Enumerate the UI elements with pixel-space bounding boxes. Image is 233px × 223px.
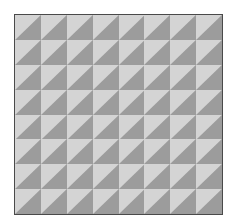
half-square-triangle-icon <box>144 90 170 115</box>
pattern-cell <box>144 115 170 140</box>
pattern-cell <box>41 115 67 140</box>
pattern-cell <box>196 65 222 90</box>
half-square-triangle-icon <box>170 40 196 65</box>
pattern-cell <box>67 164 93 189</box>
half-square-triangle-icon <box>93 15 119 40</box>
pattern-cell <box>144 139 170 164</box>
pattern-cell <box>119 115 145 140</box>
pattern-cell <box>170 40 196 65</box>
half-square-triangle-icon <box>196 164 222 189</box>
half-square-triangle-icon <box>67 65 93 90</box>
half-square-triangle-icon <box>93 139 119 164</box>
pattern-cell <box>170 15 196 40</box>
half-square-triangle-icon <box>93 65 119 90</box>
half-square-triangle-icon <box>196 65 222 90</box>
half-square-triangle-icon <box>41 65 67 90</box>
half-square-triangle-icon <box>15 90 41 115</box>
half-square-triangle-icon <box>144 65 170 90</box>
pattern-cell <box>15 115 41 140</box>
half-square-triangle-icon <box>41 15 67 40</box>
half-square-triangle-icon <box>144 15 170 40</box>
pattern-cell <box>41 90 67 115</box>
pattern-cell <box>15 139 41 164</box>
pattern-cell <box>41 65 67 90</box>
pattern-cell <box>119 65 145 90</box>
half-square-triangle-icon <box>119 164 145 189</box>
half-square-triangle-icon <box>93 115 119 140</box>
pattern-cell <box>67 90 93 115</box>
half-square-triangle-icon <box>15 164 41 189</box>
pattern-cell <box>144 40 170 65</box>
pattern-cell <box>170 189 196 214</box>
pattern-cell <box>196 189 222 214</box>
half-square-triangle-icon <box>196 90 222 115</box>
pattern-cell <box>93 115 119 140</box>
pattern-cell <box>15 90 41 115</box>
pattern-cell <box>119 15 145 40</box>
half-square-triangle-icon <box>170 65 196 90</box>
pattern-cell <box>119 90 145 115</box>
half-square-triangle-icon <box>67 40 93 65</box>
half-square-triangle-icon <box>15 115 41 140</box>
half-square-triangle-icon <box>15 65 41 90</box>
pattern-cell <box>144 189 170 214</box>
half-square-triangle-icon <box>15 15 41 40</box>
pattern-cell <box>67 139 93 164</box>
half-square-triangle-icon <box>196 189 222 214</box>
half-square-triangle-icon <box>67 164 93 189</box>
pattern-cell <box>196 40 222 65</box>
pattern-cell <box>119 40 145 65</box>
pattern-cell <box>67 15 93 40</box>
half-square-triangle-icon <box>119 15 145 40</box>
pattern-cell <box>119 164 145 189</box>
half-square-triangle-icon <box>170 115 196 140</box>
half-square-triangle-icon <box>119 65 145 90</box>
half-square-triangle-icon <box>170 189 196 214</box>
half-square-triangle-icon <box>41 189 67 214</box>
half-square-triangle-icon <box>170 139 196 164</box>
pattern-cell <box>119 189 145 214</box>
half-square-triangle-icon <box>196 15 222 40</box>
half-square-triangle-icon <box>196 115 222 140</box>
half-square-triangle-icon <box>144 115 170 140</box>
half-square-triangle-icon <box>41 139 67 164</box>
half-square-triangle-icon <box>196 139 222 164</box>
pattern-cell <box>67 115 93 140</box>
pattern-cell <box>15 65 41 90</box>
half-square-triangle-icon <box>67 139 93 164</box>
half-square-triangle-icon <box>41 164 67 189</box>
pattern-cell <box>41 164 67 189</box>
half-square-triangle-icon <box>93 189 119 214</box>
triangle-pattern-grid <box>14 14 223 215</box>
pattern-cell <box>93 189 119 214</box>
half-square-triangle-icon <box>67 90 93 115</box>
pattern-cell <box>41 15 67 40</box>
pattern-cell <box>144 164 170 189</box>
half-square-triangle-icon <box>41 115 67 140</box>
half-square-triangle-icon <box>93 90 119 115</box>
pattern-cell <box>170 90 196 115</box>
pattern-cell <box>41 189 67 214</box>
half-square-triangle-icon <box>119 40 145 65</box>
half-square-triangle-icon <box>144 40 170 65</box>
half-square-triangle-icon <box>119 139 145 164</box>
pattern-cell <box>196 90 222 115</box>
half-square-triangle-icon <box>15 139 41 164</box>
pattern-cell <box>67 40 93 65</box>
pattern-cell <box>144 65 170 90</box>
half-square-triangle-icon <box>93 164 119 189</box>
half-square-triangle-icon <box>170 15 196 40</box>
half-square-triangle-icon <box>170 164 196 189</box>
pattern-cell <box>67 65 93 90</box>
pattern-cell <box>144 90 170 115</box>
pattern-cell <box>93 164 119 189</box>
pattern-cell <box>15 189 41 214</box>
pattern-cell <box>170 65 196 90</box>
half-square-triangle-icon <box>170 90 196 115</box>
pattern-cell <box>170 164 196 189</box>
half-square-triangle-icon <box>93 40 119 65</box>
half-square-triangle-icon <box>119 189 145 214</box>
half-square-triangle-icon <box>41 40 67 65</box>
half-square-triangle-icon <box>119 115 145 140</box>
pattern-cell <box>196 115 222 140</box>
